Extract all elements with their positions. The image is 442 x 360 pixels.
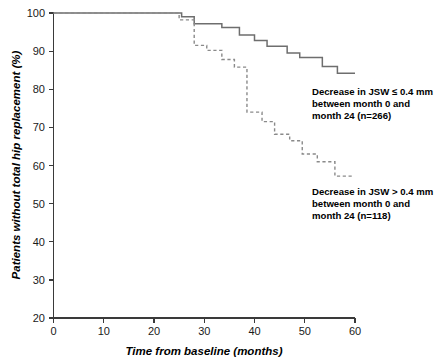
- annotation-dashed-line-3: month 24 (n=118): [312, 210, 391, 221]
- kaplan-meier-chart: 100 90 80 70 60 50 40 30 20 Patients wit…: [0, 0, 442, 360]
- x-tick-label-10: 10: [98, 325, 110, 337]
- x-tick-label-40: 40: [248, 325, 260, 337]
- annotation-solid: Decrease in JSW ≤ 0.4 mm between month 0…: [312, 86, 433, 121]
- y-tick-label-60: 60: [33, 160, 45, 172]
- x-axis-ticks: [54, 318, 356, 323]
- x-axis-tick-labels: 0 10 20 30 40 50 60: [50, 325, 361, 337]
- x-tick-label-50: 50: [299, 325, 311, 337]
- plot-curves: [54, 13, 356, 176]
- y-tick-label-70: 70: [33, 121, 45, 133]
- x-tick-label-60: 60: [349, 325, 361, 337]
- x-axis-title: Time from baseline (months): [126, 345, 283, 357]
- annotation-solid-line-1: Decrease in JSW ≤ 0.4 mm: [312, 86, 433, 97]
- y-tick-label-80: 80: [33, 83, 45, 95]
- survival-curve-jsw-high: [54, 13, 353, 176]
- x-tick-label-0: 0: [50, 325, 56, 337]
- y-tick-label-50: 50: [33, 198, 45, 210]
- y-axis-group: 100 90 80 70 60 50 40 30 20 Patients wit…: [10, 7, 54, 324]
- annotation-dashed-line-2: between month 0 and: [312, 198, 410, 209]
- y-axis-title: Patients without total hip replacement (…: [10, 50, 22, 279]
- y-tick-label-100: 100: [27, 7, 45, 19]
- annotation-solid-line-3: month 24 (n=266): [312, 110, 391, 121]
- y-tick-label-20: 20: [33, 312, 45, 324]
- survival-curve-jsw-low: [54, 13, 356, 73]
- x-tick-label-30: 30: [198, 325, 210, 337]
- y-tick-label-90: 90: [33, 45, 45, 57]
- x-tick-label-20: 20: [148, 325, 160, 337]
- y-tick-label-30: 30: [33, 274, 45, 286]
- x-axis-group: 0 10 20 30 40 50 60 Time from baseline (…: [50, 318, 361, 357]
- y-tick-label-40: 40: [33, 236, 45, 248]
- annotation-solid-line-2: between month 0 and: [312, 98, 410, 109]
- annotation-dashed: Decrease in JSW > 0.4 mm between month 0…: [312, 186, 433, 221]
- y-axis-ticks: [49, 13, 54, 318]
- annotation-dashed-line-1: Decrease in JSW > 0.4 mm: [312, 186, 433, 197]
- y-axis-tick-labels: 100 90 80 70 60 50 40 30 20: [27, 7, 45, 324]
